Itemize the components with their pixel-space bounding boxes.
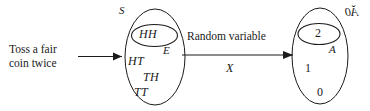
range-value-2: 2: [315, 27, 321, 39]
range-value-1: 1: [305, 62, 311, 74]
mapping-symbol-label: X: [226, 62, 233, 74]
range-value-0: 0: [317, 86, 323, 98]
mapping-caption: Random variable: [187, 31, 266, 43]
arrow-sample-to-range: [182, 51, 293, 59]
figure-canvas: Toss a fair coin twice Random variable X…: [0, 0, 370, 111]
outcome-th: TH: [143, 71, 159, 83]
event-label: E: [163, 45, 170, 56]
subset-label: A: [329, 44, 336, 55]
outcome-hh: HH: [139, 28, 157, 40]
source-description-line1: Toss a fair: [9, 43, 57, 57]
sample-space-label: S: [119, 5, 125, 16]
arrow-source-to-sample: [78, 53, 122, 61]
range-space-label: Ă0: [345, 6, 358, 18]
source-description: Toss a fair coin twice: [9, 43, 57, 70]
source-description-line2: coin twice: [9, 57, 57, 71]
outcome-tt: TT: [134, 86, 148, 98]
outcome-ht: HT: [128, 55, 144, 67]
